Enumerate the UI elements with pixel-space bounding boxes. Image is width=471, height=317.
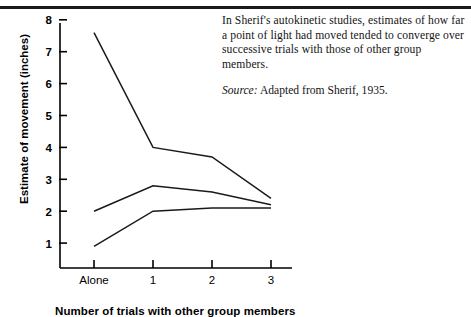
y-tick-label: 4 bbox=[46, 142, 53, 154]
caption-text: In Sherif's autokinetic studies, estimat… bbox=[222, 14, 467, 72]
caption-source: Source: Adapted from Sherif, 1935. bbox=[222, 84, 467, 99]
y-tick-label: 6 bbox=[46, 78, 52, 90]
y-tick-label: 7 bbox=[46, 46, 52, 58]
figure-container: Estimate of movement (inches) 12345678 A… bbox=[0, 9, 471, 316]
caption-source-text: Adapted from Sherif, 1935. bbox=[258, 84, 388, 97]
y-tick-label: 8 bbox=[46, 14, 53, 26]
y-axis-title: Estimate of movement (inches) bbox=[18, 34, 30, 204]
caption-area: In Sherif's autokinetic studies, estimat… bbox=[222, 14, 467, 99]
x-tick-label: 1 bbox=[150, 274, 156, 286]
x-tick-label: 3 bbox=[268, 274, 274, 286]
y-axis-ticks: 12345678 bbox=[46, 14, 67, 249]
data-line bbox=[94, 208, 271, 246]
x-axis-title: Number of trials with other group member… bbox=[55, 305, 296, 317]
y-tick-label: 5 bbox=[46, 110, 53, 122]
x-tick-label: Alone bbox=[79, 274, 108, 286]
caption-source-label: Source: bbox=[222, 84, 258, 97]
y-tick-label: 1 bbox=[46, 238, 53, 250]
y-tick-label: 2 bbox=[46, 206, 52, 218]
x-tick-label: 2 bbox=[209, 274, 215, 286]
x-axis-ticks: Alone123 bbox=[79, 260, 274, 286]
y-tick-label: 3 bbox=[46, 174, 52, 186]
